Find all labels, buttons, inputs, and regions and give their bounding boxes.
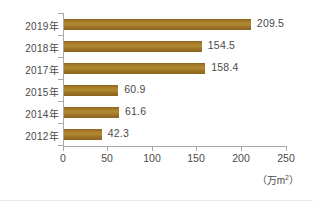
- x-axis-tick: [107, 147, 108, 151]
- value-label: 209.5: [257, 17, 284, 29]
- bar-chart: 2019年 209.5 2018年 154.5 2017年 158.4 2015…: [0, 0, 313, 202]
- x-axis-label: 0: [60, 152, 66, 164]
- unit-caption-tail: ）: [289, 175, 299, 186]
- x-axis-tick: [152, 147, 153, 151]
- value-label: 60.9: [124, 83, 145, 95]
- bar-row: 2015年 60.9: [0, 80, 313, 101]
- x-axis-label: 200: [232, 152, 250, 164]
- x-axis-tick: [241, 147, 242, 151]
- bottom-rule: [0, 200, 313, 201]
- category-label: 2014年: [25, 106, 59, 121]
- bar-row: 2017年 158.4: [0, 58, 313, 79]
- bar: [64, 129, 102, 140]
- x-axis-label: 100: [143, 152, 161, 164]
- bar: [64, 85, 118, 96]
- category-label: 2018年: [25, 40, 59, 55]
- bar-row: 2018年 154.5: [0, 36, 313, 57]
- unit-caption: （万m2）: [257, 172, 299, 187]
- category-label: 2019年: [25, 18, 59, 33]
- bar: [64, 63, 205, 74]
- x-axis-line: [63, 146, 287, 147]
- value-label: 158.4: [211, 61, 238, 73]
- bar: [64, 19, 251, 30]
- bar: [64, 41, 202, 52]
- value-label: 61.6: [125, 105, 146, 117]
- y-axis-tick: [58, 145, 63, 146]
- category-label: 2012年: [25, 128, 59, 143]
- unit-caption-head: （万m: [257, 175, 285, 186]
- x-axis-tick: [63, 147, 64, 151]
- x-axis-label: 150: [187, 152, 205, 164]
- x-axis-label: 250: [277, 152, 295, 164]
- value-label: 42.3: [108, 127, 129, 139]
- x-axis-label: 50: [101, 152, 113, 164]
- x-axis-tick: [196, 147, 197, 151]
- bar-row: 2019年 209.5: [0, 14, 313, 35]
- category-label: 2015年: [25, 84, 59, 99]
- x-axis-tick: [286, 147, 287, 151]
- bar-row: 2014年 61.6: [0, 102, 313, 123]
- bar-row: 2012年 42.3: [0, 124, 313, 145]
- bar: [64, 107, 119, 118]
- category-label: 2017年: [25, 62, 59, 77]
- value-label: 154.5: [208, 39, 235, 51]
